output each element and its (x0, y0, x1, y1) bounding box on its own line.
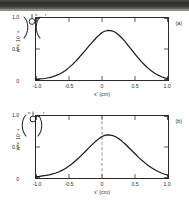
panel-label-a: (a) (175, 20, 182, 26)
left-bracket-icon (24, 17, 28, 38)
x-tick-label-b-2: -0.5 (65, 181, 74, 187)
right-bracket-icon (38, 115, 42, 136)
x-tick-label-b-3: 0 (101, 181, 104, 187)
plot-svg-b (36, 116, 168, 178)
x-axis-label-a: x' (cm) (35, 91, 169, 97)
scan-artifact-band (0, 0, 189, 9)
plot-svg-a (36, 18, 168, 80)
figure-container: 1.0 0.5 0 n × 10⁻⁸ (0, 9, 189, 212)
plot-area-b (35, 115, 169, 179)
right-bracket-icon (36, 17, 40, 38)
x-tick-label-a-5: 1.0 (164, 83, 171, 89)
plot-area-a (35, 17, 169, 81)
inset-particle-label-a: n (35, 12, 37, 17)
y-tick-label-b-3: 0 (0, 176, 19, 182)
inset-svg-a (17, 13, 51, 43)
x-tick-label-b-1: -1.0 (33, 181, 42, 187)
inset-schematic-b: n r (17, 111, 51, 141)
inset-schematic-a: n r (17, 13, 51, 43)
inset-particle-label-b: n (28, 110, 30, 115)
x-tick-label-a-4: 0.5 (132, 83, 139, 89)
chart-panel-a: 1.0 0.5 0 n × 10⁻⁸ (0, 11, 189, 109)
x-tick-label-a-2: -0.5 (65, 83, 74, 89)
inset-axis-label-b: r (43, 110, 44, 115)
data-curve-a (36, 30, 168, 79)
x-axis-label-b: x' (cm) (35, 189, 169, 195)
left-bracket-icon (22, 115, 26, 136)
tick-marks-a (36, 18, 168, 80)
x-tick-label-b-4: 0.5 (132, 181, 139, 187)
y-tick-label-a-3: 0 (0, 78, 19, 84)
inset-axis-label-a: r (45, 12, 46, 17)
particle-circle-icon (29, 19, 35, 25)
x-tick-label-a-3: 0 (101, 83, 104, 89)
x-tick-label-a-1: -1.0 (33, 83, 42, 89)
x-tick-label-b-5: 1.0 (164, 181, 171, 187)
inset-svg-b (17, 111, 51, 141)
panel-label-b: (b) (175, 118, 182, 124)
chart-panel-b: 1.0 0.5 0 n × 10⁻⁸ (0, 109, 189, 207)
particle-circle-icon (30, 116, 36, 122)
